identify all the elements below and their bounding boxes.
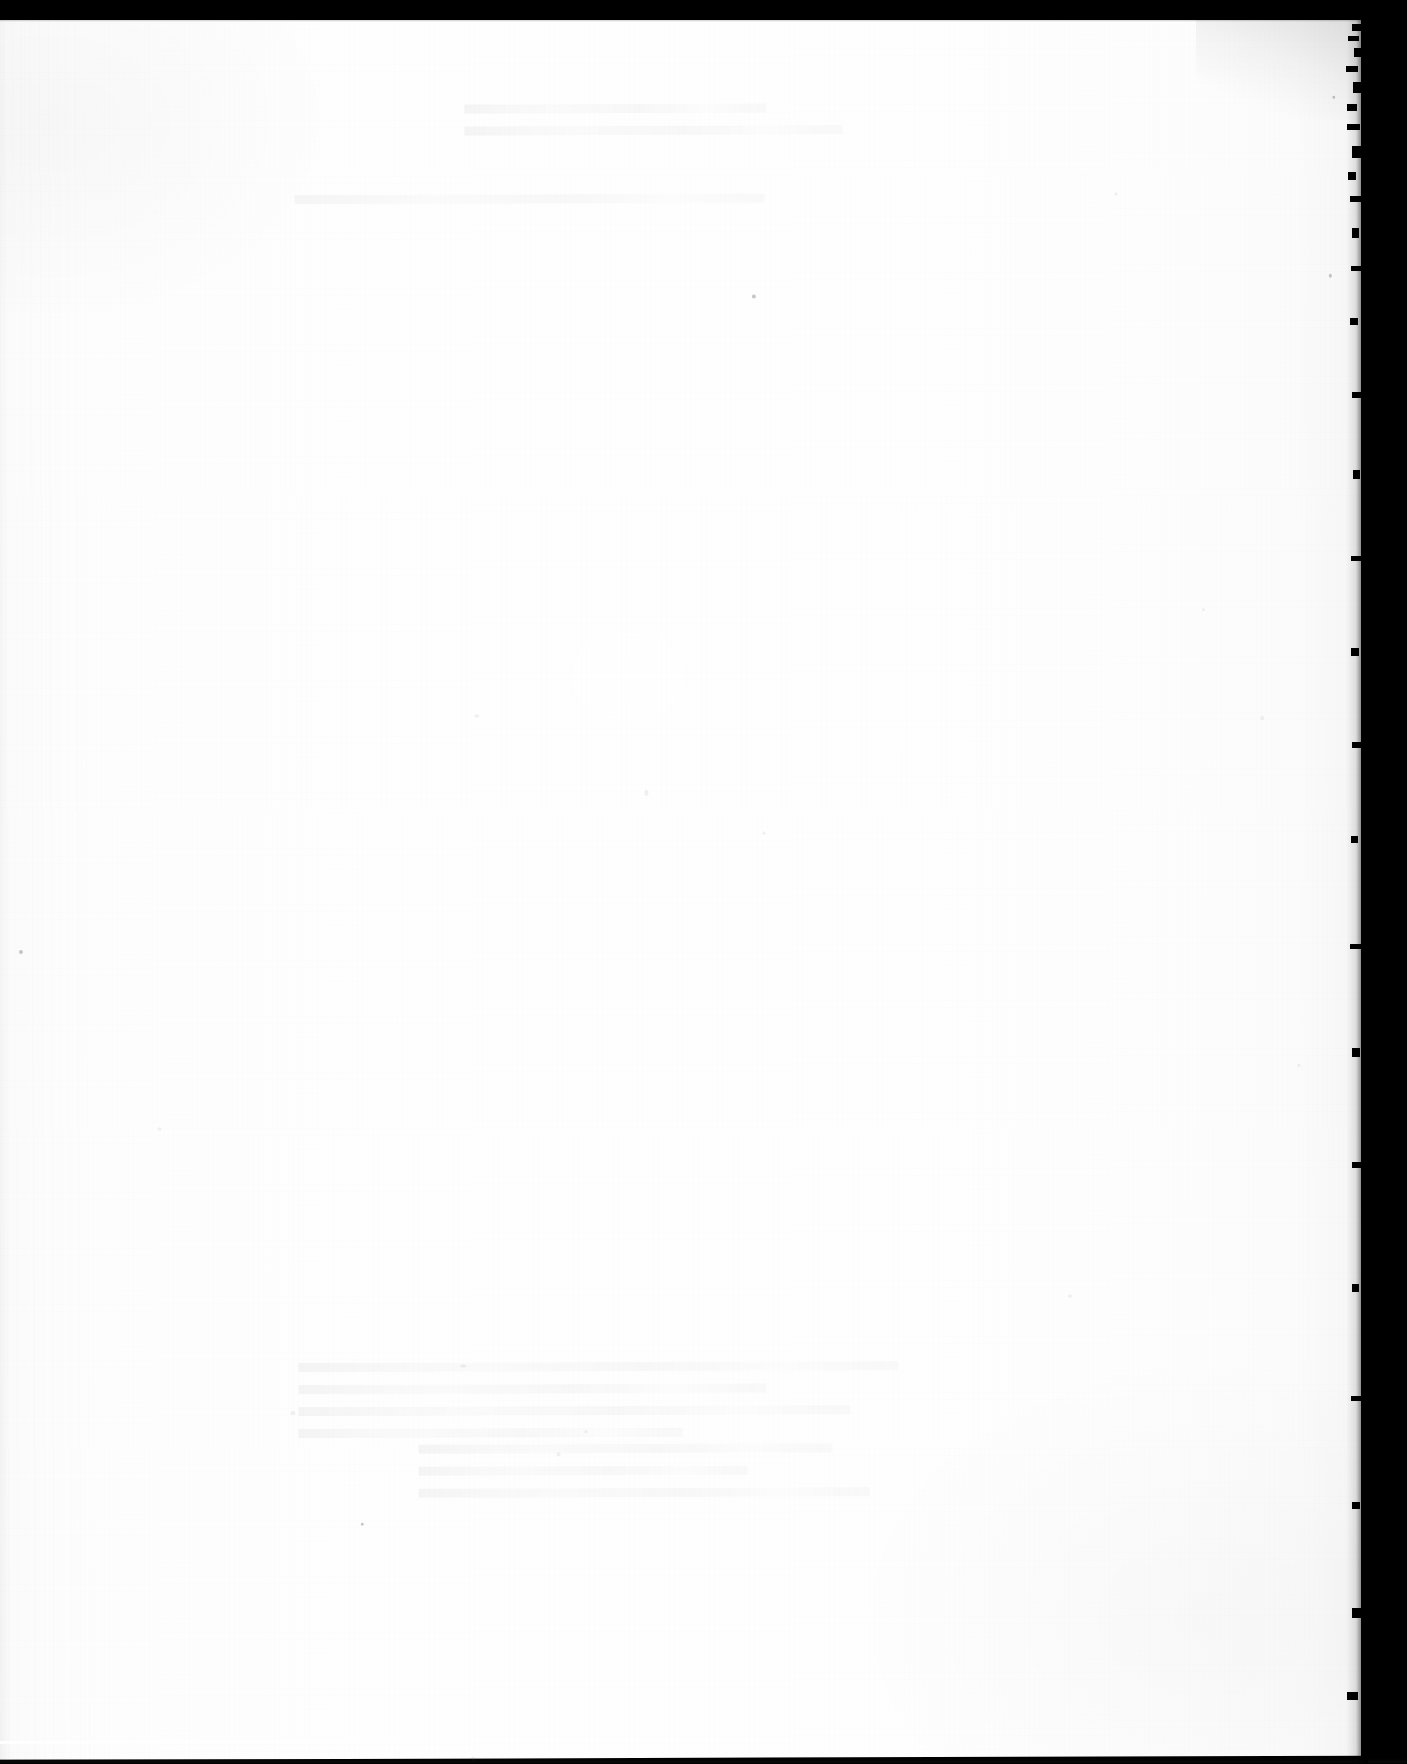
deckle-notch (1352, 24, 1361, 31)
scanned-page-image (0, 0, 1407, 1764)
dust-speck (1332, 96, 1335, 99)
page-text-content (114, 162, 1223, 1609)
paper-sheet (0, 12, 1373, 1760)
deckle-notch (1353, 82, 1361, 93)
scanner-edge-band-bottom (0, 1759, 1407, 1764)
deckle-notch (1353, 470, 1360, 479)
deckle-notch (1351, 1396, 1361, 1401)
showthrough-line (464, 125, 842, 135)
deckle-notch (1352, 1608, 1361, 1618)
dust-speck (1297, 1064, 1300, 1067)
deckle-notch (1347, 1692, 1358, 1700)
deckle-notch (1351, 556, 1361, 561)
deckle-notch (1350, 944, 1361, 949)
deckle-notch (1352, 146, 1361, 158)
deckle-notch (1352, 228, 1359, 238)
deckle-notch (1352, 1284, 1359, 1292)
scanner-edge-band-top (0, 0, 1407, 20)
deckle-notch (1352, 1048, 1360, 1057)
deckle-notch (1352, 392, 1361, 398)
bottom-edge-highlight (0, 1739, 519, 1744)
deckle-notch (1346, 66, 1358, 72)
deckle-notch (1348, 36, 1359, 41)
deckle-notch (1351, 648, 1359, 656)
deckle-notch (1352, 742, 1361, 748)
deckle-notch (1351, 836, 1358, 843)
deckle-notch (1350, 196, 1361, 202)
deckle-notch (1352, 1162, 1361, 1168)
dust-speck (19, 950, 23, 954)
deckle-notch (1348, 172, 1356, 180)
deckle-notch (1350, 318, 1358, 325)
scan-streak-artifacts (0, 16, 89, 1760)
scanner-edge-band-right (1361, 0, 1407, 1764)
deckle-notch (1347, 104, 1357, 111)
showthrough-line (464, 104, 766, 114)
showthrough-block (464, 103, 884, 148)
deckle-notch (1354, 48, 1361, 57)
deckle-notch (1352, 1502, 1360, 1509)
dust-speck (1260, 716, 1264, 720)
dust-speck (1329, 274, 1332, 278)
deckle-notch (1351, 266, 1361, 271)
deckle-notch (1347, 124, 1360, 130)
